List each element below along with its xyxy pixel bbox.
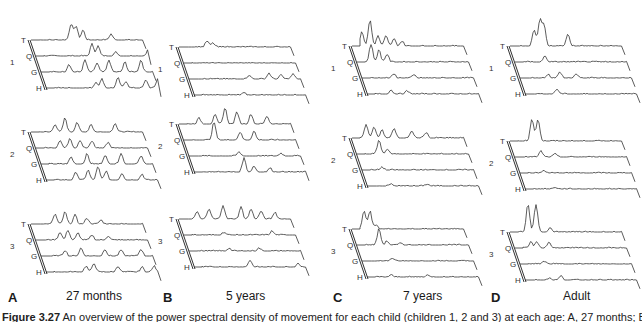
spectrum-trace-q	[357, 141, 472, 163]
trace-label-q: Q	[347, 150, 353, 159]
spectrum-trace-g	[189, 73, 304, 88]
trace-label-h: H	[357, 90, 363, 99]
trace-label-h: H	[515, 276, 521, 285]
subject-number: 3	[489, 250, 494, 259]
spectrum-trace-q	[515, 151, 630, 166]
trace-label-g: G	[510, 260, 516, 269]
panel-letter-c: C	[333, 290, 342, 305]
subject-number: 2	[489, 159, 494, 168]
panel-age-b: 5 years	[226, 289, 265, 303]
spectrum-trace-t	[179, 42, 294, 56]
axis-spine	[349, 138, 366, 188]
trace-label-g: G	[179, 152, 185, 161]
trace-label-q: Q	[174, 231, 180, 240]
trace-label-g: G	[31, 252, 37, 261]
spectrum-trace-h	[367, 90, 482, 103]
trace-label-t: T	[342, 134, 347, 143]
trace-label-h: H	[515, 185, 521, 194]
subject-number: 2	[331, 156, 336, 165]
subject-number: 2	[10, 150, 15, 159]
spectrum-trace-q	[184, 231, 299, 244]
trace-label-g: G	[510, 169, 516, 178]
trace-label-t: T	[21, 36, 26, 45]
spectrum-trace-g	[189, 152, 304, 165]
trace-label-t: T	[500, 137, 505, 146]
spectrum-trace-q	[357, 229, 472, 254]
subject-number: 2	[158, 142, 163, 151]
axis-spine	[509, 141, 526, 191]
trace-label-q: Q	[505, 153, 511, 162]
spectrum-trace-q	[515, 242, 630, 257]
trace-label-h: H	[357, 273, 363, 282]
panel-c: 1TQGH2TQGH3TQGH	[331, 21, 482, 286]
caption-text: An overview of the power spectral densit…	[63, 311, 642, 322]
trace-label-t: T	[169, 215, 174, 224]
trace-label-h: H	[357, 182, 363, 191]
trace-label-q: Q	[26, 52, 32, 61]
axis-spine	[507, 141, 524, 191]
axis-spine	[28, 224, 45, 274]
panel-b: 1TQGH2TQGH3TQGH	[158, 42, 309, 276]
spectrum-trace-h	[46, 264, 161, 281]
trace-label-t: T	[21, 128, 26, 137]
axis-spine	[351, 138, 368, 188]
trace-label-g: G	[352, 257, 358, 266]
axis-spine	[176, 124, 193, 174]
trace-label-g: G	[179, 247, 185, 256]
trace-label-q: Q	[347, 241, 353, 250]
trace-label-h: H	[184, 263, 190, 272]
axis-spine	[176, 47, 193, 97]
spectrum-trace-q	[357, 45, 472, 71]
panel-a: 1TQGH2TQGH3TQGH	[10, 25, 161, 281]
spectrum-trace-h	[525, 188, 640, 198]
spectrum-trace-h	[46, 167, 161, 189]
figure-plot-area: 1TQGH2TQGH3TQGH1TQGH2TQGH3TQGH1TQGH2TQGH…	[0, 0, 642, 322]
subject-number: 3	[158, 237, 163, 246]
spectrum-trace-t	[352, 124, 467, 146]
spectrum-trace-q	[184, 123, 299, 149]
trace-label-h: H	[36, 84, 42, 93]
axis-spine	[28, 40, 45, 90]
trace-label-q: Q	[505, 58, 511, 67]
trace-label-t: T	[169, 120, 174, 129]
trace-label-g: G	[510, 74, 516, 83]
axis-spine	[178, 219, 195, 269]
trace-label-t: T	[342, 42, 347, 51]
trace-label-q: Q	[347, 58, 353, 67]
spectrum-trace-t	[510, 205, 625, 241]
subject-number: 1	[331, 64, 336, 73]
trace-label-h: H	[36, 176, 42, 185]
axis-spine	[509, 46, 526, 96]
trace-label-h: H	[184, 91, 190, 100]
axis-spine	[176, 219, 193, 269]
trace-label-t: T	[342, 225, 347, 234]
trace-label-g: G	[31, 68, 37, 77]
axis-spine	[349, 229, 366, 279]
spectrum-trace-t	[31, 212, 146, 233]
spectrum-trace-t	[179, 109, 294, 133]
panel-letter-d: D	[491, 290, 500, 305]
trace-label-g: G	[179, 75, 185, 84]
axis-spine	[30, 132, 47, 182]
subject-number: 3	[331, 247, 336, 256]
panel-age-c: 7 years	[403, 289, 442, 303]
spectrum-trace-h	[525, 89, 640, 103]
spectrum-trace-t	[510, 120, 625, 150]
subject-number: 3	[10, 242, 15, 251]
figure-caption: Figure 3.27 An overview of the power spe…	[2, 311, 642, 322]
trace-label-h: H	[36, 268, 42, 277]
spectrum-trace-h	[367, 275, 482, 286]
axis-spine	[178, 124, 195, 174]
spectrum-trace-h	[46, 78, 161, 97]
subject-number: 1	[10, 58, 15, 67]
spectrum-trace-g	[41, 60, 156, 81]
trace-label-h: H	[515, 90, 521, 99]
axis-spine	[178, 47, 195, 97]
axis-spine	[507, 46, 524, 96]
trace-label-t: T	[500, 42, 505, 51]
spectrum-trace-g	[41, 153, 156, 172]
trace-label-q: Q	[26, 236, 32, 245]
spectrum-trace-t	[352, 211, 467, 238]
spectrum-trace-g	[41, 248, 156, 265]
spectrum-trace-q	[515, 56, 630, 71]
